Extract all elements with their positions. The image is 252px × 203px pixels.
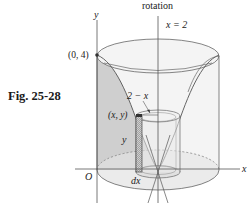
point-0-4-label: (0, 4) <box>68 50 89 61</box>
origin-label: O <box>85 171 92 182</box>
radius-label: 2 − x <box>127 90 149 101</box>
y-axis-label: y <box>93 9 99 20</box>
point-x-y-marker <box>136 114 142 117</box>
height-label: y <box>121 134 127 145</box>
thickness-label: dx <box>131 175 141 186</box>
figure-caption: Fig. 25-28 <box>8 89 61 104</box>
point-x-y-label: (x, y) <box>108 110 128 121</box>
x-axis-label: x <box>241 163 247 174</box>
rotation-axis-equation: x = 2 <box>165 19 187 30</box>
rectangular-strip <box>136 116 142 172</box>
rotation-label: rotation <box>142 0 173 11</box>
point-0-4 <box>95 53 99 57</box>
